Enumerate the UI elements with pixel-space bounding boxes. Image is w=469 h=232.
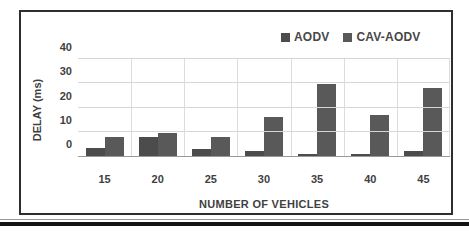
y-tick-label-0: 0	[46, 138, 72, 150]
bar-group-30	[237, 59, 290, 156]
legend-label-cav-aodv: CAV-AODV	[356, 30, 420, 44]
bottom-rule-thin	[0, 219, 469, 220]
x-axis-line	[78, 156, 450, 157]
bar-cav-aodv-40	[370, 115, 389, 156]
bar-aodv-35	[298, 154, 317, 156]
x-category-label-20: 20	[131, 173, 184, 185]
gridline-y-40	[78, 58, 450, 59]
y-axis-title: DELAY (ms)	[31, 70, 43, 150]
gridline-x-1	[131, 59, 132, 156]
bar-group-20	[131, 59, 184, 156]
plot-area: 010203040	[78, 59, 450, 156]
bar-aodv-30	[245, 151, 264, 156]
x-category-label-35: 35	[291, 173, 344, 185]
legend-label-aodv: AODV	[294, 30, 329, 44]
legend-item-cav-aodv: CAV-AODV	[343, 30, 420, 44]
x-category-label-40: 40	[344, 173, 397, 185]
legend-swatch-aodv-icon	[281, 33, 290, 42]
x-category-label-45: 45	[397, 173, 450, 185]
y-tick-label-20: 20	[46, 90, 72, 102]
bar-group-15	[78, 59, 131, 156]
gridline-x-6	[397, 59, 398, 156]
bar-cav-aodv-20	[158, 133, 177, 156]
bar-aodv-40	[351, 154, 370, 156]
gridline-x-3	[237, 59, 238, 156]
bar-group-35	[291, 59, 344, 156]
chart-frame: AODV CAV-AODV DELAY (ms) 010203040 15202…	[19, 10, 453, 215]
bar-cav-aodv-30	[264, 117, 283, 156]
page: AODV CAV-AODV DELAY (ms) 010203040 15202…	[0, 0, 469, 232]
bottom-rule-thick	[0, 222, 469, 226]
bar-aodv-25	[192, 149, 211, 156]
legend: AODV CAV-AODV	[281, 30, 421, 44]
y-tick-label-40: 40	[46, 41, 72, 53]
y-tick-label-10: 10	[46, 114, 72, 126]
gridline-x-2	[184, 59, 185, 156]
bar-groups	[78, 59, 450, 156]
gridline-y-10	[78, 131, 450, 132]
bar-group-25	[184, 59, 237, 156]
bar-aodv-15	[86, 148, 105, 156]
x-category-labels: 15202530354045	[78, 173, 450, 185]
bar-group-45	[397, 59, 450, 156]
bar-aodv-20	[139, 137, 158, 156]
bar-cav-aodv-25	[211, 137, 230, 156]
legend-swatch-cav-aodv-icon	[343, 33, 352, 42]
bar-cav-aodv-15	[105, 137, 124, 156]
x-category-label-15: 15	[78, 173, 131, 185]
gridline-y-20	[78, 107, 450, 108]
gridline-x-5	[344, 59, 345, 156]
bar-aodv-45	[404, 151, 423, 156]
gridline-x-7	[449, 59, 450, 156]
bar-cav-aodv-35	[317, 84, 336, 156]
x-axis-title: NUMBER OF VEHICLES	[78, 198, 450, 210]
y-tick-label-30: 30	[46, 65, 72, 77]
gridline-y-30	[78, 82, 450, 83]
legend-item-aodv: AODV	[281, 30, 329, 44]
bar-cav-aodv-45	[423, 88, 442, 156]
gridline-x-4	[291, 59, 292, 156]
x-category-label-30: 30	[237, 173, 290, 185]
x-category-label-25: 25	[184, 173, 237, 185]
bar-group-40	[344, 59, 397, 156]
